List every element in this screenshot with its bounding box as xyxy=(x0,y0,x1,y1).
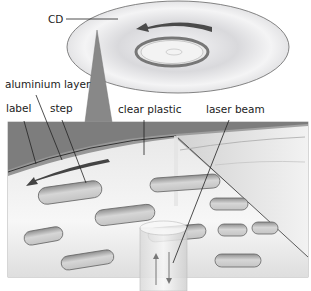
laser-beam-column xyxy=(140,221,187,291)
label-aluminium-layer: aluminium layer xyxy=(5,78,91,90)
label-label: label xyxy=(6,102,31,114)
label-cd: CD xyxy=(48,13,63,25)
label-laser-beam: laser beam xyxy=(206,103,265,115)
label-step: step xyxy=(50,102,73,114)
label-clear-plastic: clear plastic xyxy=(118,103,182,115)
cd-diagram: CD aluminium layer label step clear plas… xyxy=(0,0,311,291)
